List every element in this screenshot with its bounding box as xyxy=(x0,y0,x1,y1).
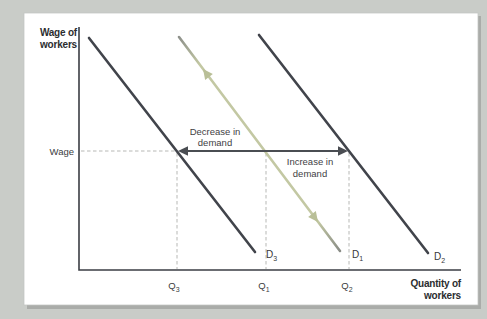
wage-tick-label: Wage xyxy=(50,146,74,157)
decrease-annotation-line2: demand xyxy=(198,137,232,148)
figure-panel xyxy=(24,13,478,305)
x-axis-title-line1: Quantity of xyxy=(410,278,461,289)
y-axis-title-line2: workers xyxy=(39,39,78,50)
decrease-annotation-line1: Decrease in xyxy=(190,126,241,137)
increase-annotation-line2: demand xyxy=(293,168,327,179)
increase-annotation-line1: Increase in xyxy=(287,156,333,167)
y-axis-title-line1: Wage of xyxy=(40,27,78,38)
x-axis-title-line2: workers xyxy=(423,290,462,301)
labor-demand-figure: Wage of workers Quantity of workers Wage… xyxy=(0,0,487,319)
